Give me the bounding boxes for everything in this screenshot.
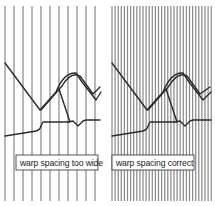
caption-warp-spacing-too-wide: warp spacing too wide [19, 158, 103, 168]
caption-warp-spacing-correct: warp spacing correct [115, 158, 194, 168]
panel-warp-spacing-correct: warp spacing correct [112, 6, 211, 201]
warp-threads-right [112, 6, 211, 201]
warp-spacing-figure: warp spacing too wide [0, 0, 215, 206]
diagram-canvas: warp spacing too wide [0, 0, 215, 206]
